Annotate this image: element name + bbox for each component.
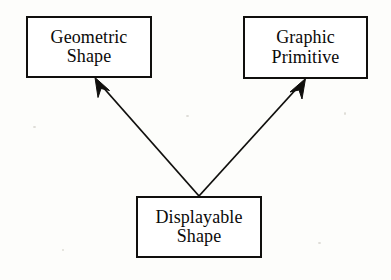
diagram-canvas: Geometric Shape Graphic Primitive Displa… <box>0 0 391 280</box>
class-box-label-line-1: Graphic <box>276 28 335 47</box>
connector-displayable-to-geometric <box>95 78 199 197</box>
class-box-label-line-2: Shape <box>177 227 222 246</box>
connector-displayable-to-graphic <box>199 79 306 197</box>
class-box-label-line-1: Displayable <box>155 208 242 227</box>
class-box-label-line-1: Geometric <box>51 28 128 47</box>
class-box-label-line-2: Primitive <box>272 48 340 67</box>
arrowhead-icon <box>95 78 110 98</box>
arrowhead-icon <box>290 79 306 100</box>
class-box-geometric-shape[interactable]: Geometric Shape <box>26 16 152 78</box>
class-box-label-line-2: Shape <box>67 47 112 66</box>
connector-line <box>102 86 200 197</box>
class-box-graphic-primitive[interactable]: Graphic Primitive <box>243 16 368 79</box>
connector-line <box>199 87 299 197</box>
class-box-displayable-shape[interactable]: Displayable Shape <box>136 196 262 258</box>
